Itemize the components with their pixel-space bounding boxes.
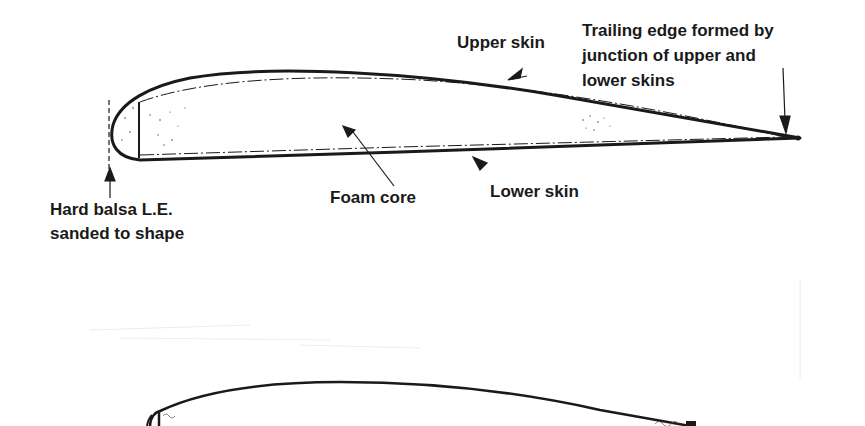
upper-skin-arrow-icon xyxy=(508,69,522,80)
trailing-edge-point xyxy=(796,136,801,141)
top-airfoil xyxy=(109,71,801,175)
lower-skin-arrow-icon xyxy=(473,157,487,170)
label-lower-skin: Lower skin xyxy=(490,182,579,201)
label-trailing-edge-3: lower skins xyxy=(582,71,675,90)
airfoil-diagram: Upper skin Trailing edge formed by junct… xyxy=(0,0,865,426)
faint-background-marks xyxy=(90,280,800,380)
label-upper-skin: Upper skin xyxy=(457,33,545,52)
label-leading-edge-2: sanded to shape xyxy=(50,224,184,243)
label-leading-edge-1: Hard balsa L.E. xyxy=(50,200,173,219)
trailing-edge-arrow-icon xyxy=(780,116,790,133)
bottom-airfoil-upper-outline xyxy=(150,382,690,426)
leading-edge-arrow-icon xyxy=(105,168,115,181)
label-trailing-edge-2: junction of upper and xyxy=(581,46,756,65)
label-foam-core: Foam core xyxy=(330,188,416,207)
label-trailing-edge-1: Trailing edge formed by xyxy=(582,21,774,40)
bottom-airfoil-partial xyxy=(147,382,696,426)
